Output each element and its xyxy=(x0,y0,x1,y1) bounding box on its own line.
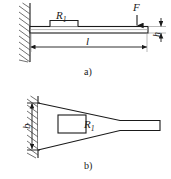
label-width-b: b xyxy=(21,124,32,130)
label-force-f: F xyxy=(133,2,140,13)
label-length-l: l xyxy=(86,36,89,47)
caption-panel-b: b) xyxy=(84,160,92,171)
figure-canvas: R1 F l h a) b R1 b) xyxy=(0,0,171,179)
cantilever-beam-diagram xyxy=(0,0,171,179)
strain-gauge-b xyxy=(58,115,86,133)
wall-support-a xyxy=(19,3,30,62)
label-gauge-r1-bottom: R1 xyxy=(84,119,95,133)
label-gauge-r1-top: R1 xyxy=(56,10,67,24)
beam-side-view xyxy=(30,27,148,34)
caption-panel-a: a) xyxy=(84,66,92,77)
dimension-thickness-h xyxy=(148,18,166,42)
panel-a-group xyxy=(19,3,166,62)
tapered-beam-outline xyxy=(38,103,160,150)
label-thickness-h: h xyxy=(152,32,162,37)
